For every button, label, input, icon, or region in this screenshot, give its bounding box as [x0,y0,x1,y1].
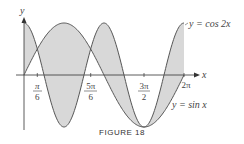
tick-label-5pi-6-den: 6 [88,92,93,102]
tick-label-pi-6-num: π [35,81,40,91]
tick-label-5pi-6-num: 5π [86,81,96,91]
tick-label-2pi: 2π [181,80,191,90]
leader-cos2x [185,23,188,25]
y-axis-arrow-icon [22,17,27,23]
label-sinx: y = sin x [171,99,207,110]
chart-svg: y x π 6 5π 6 3π 2 2π y = cos 2x y = sin … [0,0,244,144]
figure-caption: FIGURE 18 [0,128,244,137]
y-axis-label: y [19,5,25,16]
label-cos2x: y = cos 2x [188,18,231,29]
x-axis-label: x [201,69,207,80]
tick-label-3pi-2-num: 3π [139,81,149,91]
tick-label-3pi-2-den: 2 [142,92,147,102]
tick-label-pi-6-den: 6 [35,92,40,102]
x-axis-arrow-icon [194,73,200,78]
